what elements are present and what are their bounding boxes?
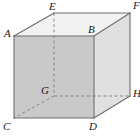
cuboid-drawing [0, 0, 140, 138]
vertex-label-h: H [133, 88, 140, 99]
vertex-label-f: F [133, 0, 140, 11]
vertex-label-e: E [49, 1, 56, 12]
geometry-figure: A B C D E F G H [0, 0, 140, 138]
vertex-label-a: A [4, 28, 11, 39]
vertex-label-b: B [88, 24, 95, 35]
vertex-label-d: D [89, 121, 97, 132]
vertex-label-c: C [3, 121, 10, 132]
vertex-label-g: G [41, 85, 49, 96]
